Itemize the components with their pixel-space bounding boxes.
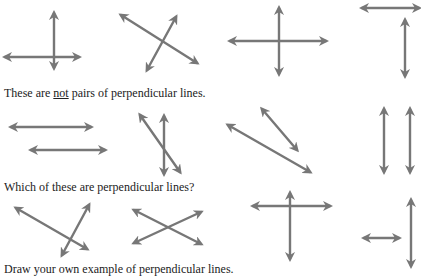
double-arrow-line: [228, 125, 310, 172]
which-are-perpendicular-figure-2: [134, 210, 201, 244]
perpendicular-examples-figure-2: [121, 15, 197, 70]
not-perpendicular-examples-figure-4: [384, 109, 410, 172]
caption-which-perpendicular: Which of these are perpendicular lines?: [4, 180, 194, 194]
caption-emphasis: not: [53, 86, 68, 100]
double-arrow-line: [140, 115, 180, 172]
which-are-perpendicular-figure-4: [364, 200, 411, 266]
perpendicular-examples-figure-1: [5, 13, 79, 68]
not-perpendicular-examples-figure-3: [228, 109, 310, 172]
not-perpendicular-examples-figure-1: [11, 127, 105, 150]
caption-not-perpendicular: These are not pairs of perpendicular lin…: [4, 86, 206, 100]
double-arrow-line: [121, 15, 197, 63]
which-are-perpendicular-figure-1: [16, 205, 89, 255]
caption-text: pairs of perpendicular lines.: [69, 86, 206, 100]
double-arrow-line: [147, 17, 176, 70]
perpendicular-examples-figure-3: [230, 8, 326, 74]
which-are-perpendicular-figure-3: [253, 193, 330, 259]
diagram-canvas: [0, 0, 421, 277]
caption-text: These are: [4, 86, 53, 100]
caption-draw-your-own: Draw your own example of perpendicular l…: [4, 262, 234, 276]
double-arrow-line: [262, 109, 297, 150]
not-perpendicular-examples-figure-2: [140, 115, 180, 174]
perpendicular-examples-figure-4: [362, 8, 419, 76]
